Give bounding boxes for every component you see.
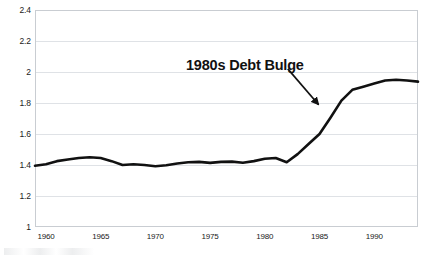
gridline bbox=[36, 103, 417, 104]
x-axis-tick-label: 1960 bbox=[37, 233, 54, 241]
y-axis-tick-label: 2.2 bbox=[19, 37, 31, 46]
x-axis-tick-label: 1975 bbox=[202, 233, 219, 241]
x-axis-tick-label: 1990 bbox=[366, 233, 383, 241]
y-axis-tick-label: 1 bbox=[26, 223, 31, 232]
y-axis-tick-label: 1.8 bbox=[19, 99, 31, 108]
gridline bbox=[36, 165, 417, 166]
x-axis-tick-label: 1970 bbox=[147, 233, 164, 241]
y-axis-tick-label: 2 bbox=[26, 68, 31, 77]
y-axis-tick-labels: 2.42.221.81.61.41.21 bbox=[0, 0, 31, 256]
gridline bbox=[36, 196, 417, 197]
gridline bbox=[36, 134, 417, 135]
gridline bbox=[36, 41, 417, 42]
x-axis-tick-label: 1980 bbox=[256, 233, 273, 241]
x-axis-tick-label: 1965 bbox=[92, 233, 109, 241]
annotation-text-1980s-debt-bulge: 1980s Debt Bulge bbox=[186, 58, 304, 73]
footer-artifact bbox=[4, 248, 94, 255]
x-axis-tick-label: 1985 bbox=[311, 233, 328, 241]
chart-figure: 2.42.221.81.61.41.21 1980s Debt Bulge 19… bbox=[0, 0, 428, 256]
plot-area bbox=[35, 10, 418, 227]
y-axis-tick-label: 1.6 bbox=[19, 130, 31, 139]
y-axis-tick-label: 1.4 bbox=[19, 161, 31, 170]
y-axis-tick-label: 2.4 bbox=[19, 6, 31, 15]
y-axis-tick-label: 1.2 bbox=[19, 192, 31, 201]
